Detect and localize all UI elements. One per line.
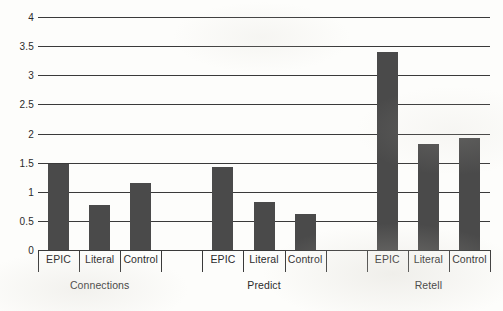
bar xyxy=(89,205,110,250)
category-label-epic: EPIC xyxy=(38,253,79,265)
category-label-literal: Literal xyxy=(79,253,120,265)
bar xyxy=(48,164,69,250)
category-label-literal: Literal xyxy=(243,253,284,265)
category-label-epic: EPIC xyxy=(367,253,408,265)
category-separator-tick xyxy=(326,250,327,272)
y-axis-tick-label: 0.5 xyxy=(4,215,34,226)
y-axis-tick-label: 0 xyxy=(4,245,34,256)
bar xyxy=(295,214,316,250)
category-separator-tick xyxy=(490,250,491,272)
category-label-control: Control xyxy=(285,253,326,265)
category-separator-tick xyxy=(161,250,162,272)
bars-layer xyxy=(38,17,490,250)
bar xyxy=(212,167,233,250)
bar xyxy=(254,202,275,250)
y-axis-tick-label: 3 xyxy=(4,70,34,81)
y-axis-tick-label: 4 xyxy=(4,12,34,23)
category-label-control: Control xyxy=(449,253,490,265)
y-axis-tick-label: 1 xyxy=(4,186,34,197)
y-axis-tick-label: 2.5 xyxy=(4,99,34,110)
y-axis-tick-label: 3.5 xyxy=(4,41,34,52)
plot-area xyxy=(38,17,490,250)
category-axis: EPICLiteralControlConnectionsEPICLiteral… xyxy=(38,250,490,311)
group-label-predict: Predict xyxy=(202,279,325,291)
y-axis-tick-label: 1.5 xyxy=(4,157,34,168)
bar xyxy=(130,183,151,250)
group-label-retell: Retell xyxy=(367,279,490,291)
y-axis-tick-label: 2 xyxy=(4,128,34,139)
category-label-literal: Literal xyxy=(408,253,449,265)
y-axis: 00.511.522.533.54 xyxy=(0,0,34,311)
group-label-connections: Connections xyxy=(38,279,161,291)
category-label-epic: EPIC xyxy=(202,253,243,265)
grouped-bar-chart: 00.511.522.533.54 EPICLiteralControlConn… xyxy=(0,0,503,311)
category-label-control: Control xyxy=(120,253,161,265)
bar xyxy=(459,138,480,250)
bar xyxy=(418,144,439,250)
bar xyxy=(377,52,398,250)
